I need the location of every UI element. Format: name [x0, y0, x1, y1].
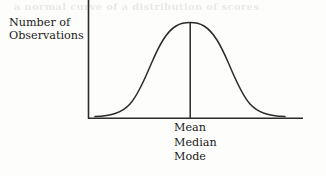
- normal-curve-figure: a normal curve of a distribution of scor…: [0, 0, 326, 176]
- mode-label: Mode: [174, 150, 217, 165]
- y-axis-label: Number of Observations: [9, 16, 85, 43]
- center-tendency-label: Mean Median Mode: [174, 121, 217, 165]
- median-label: Median: [174, 136, 217, 151]
- mean-label: Mean: [174, 121, 217, 136]
- y-axis-label-line-2: Observations: [9, 29, 85, 42]
- y-axis-label-line-1: Number of: [9, 16, 85, 29]
